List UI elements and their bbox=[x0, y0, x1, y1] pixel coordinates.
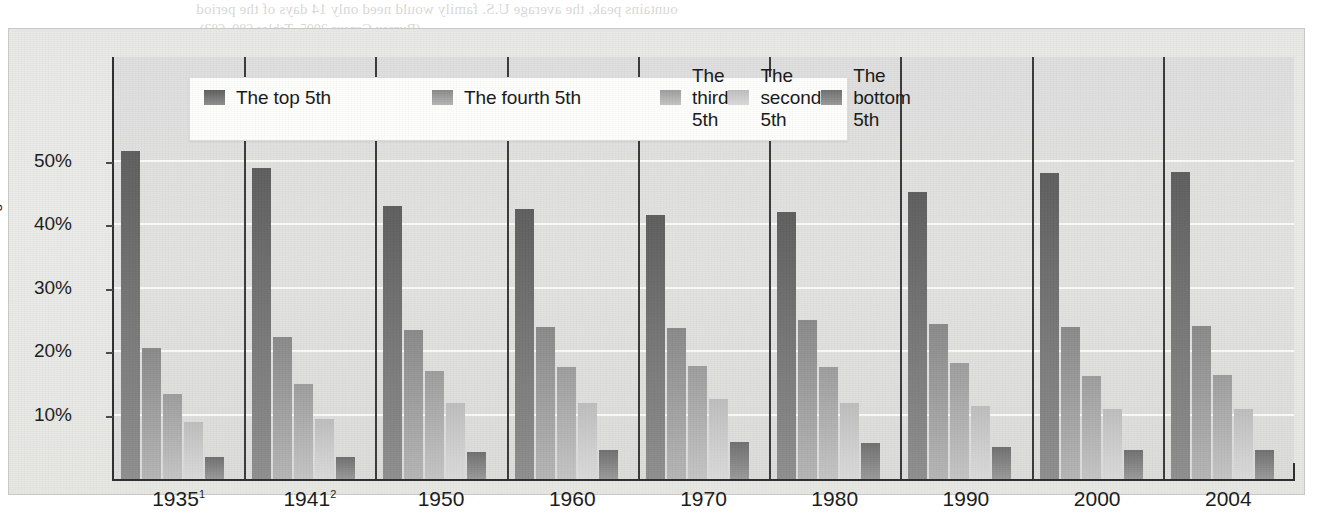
x-axis-line bbox=[112, 479, 1295, 481]
bar-2000-the-third-5th[interactable] bbox=[1082, 376, 1101, 479]
x-axis-label-1990: 1990 bbox=[900, 487, 1031, 511]
bar-1990-the-bottom-5th[interactable] bbox=[992, 447, 1011, 479]
group-separator bbox=[1163, 57, 1165, 479]
bar-1970-the-top-5th[interactable] bbox=[646, 215, 665, 479]
y-tick-40 bbox=[106, 225, 113, 227]
bar-1950-the-third-5th[interactable] bbox=[425, 371, 444, 479]
bar-1960-the-third-5th[interactable] bbox=[557, 367, 576, 479]
bar-1980-the-bottom-5th[interactable] bbox=[861, 443, 880, 479]
x-axis-label-1935: 19351 bbox=[113, 487, 244, 511]
y-tick-label-30: 30% bbox=[12, 277, 72, 299]
bar-1980-the-second-5th[interactable] bbox=[840, 403, 859, 479]
bar-1990-the-top-5th[interactable] bbox=[908, 192, 927, 479]
bar-1980-the-fourth-5th[interactable] bbox=[798, 320, 817, 479]
legend-item-the-second-5th[interactable]: The second 5th bbox=[728, 85, 821, 110]
ghost-text-top-line-1: ountains peak, the average U.S. family w… bbox=[196, 1, 678, 18]
group-separator bbox=[1032, 57, 1034, 479]
legend-swatch-icon bbox=[660, 90, 681, 105]
bar-2004-the-second-5th[interactable] bbox=[1234, 409, 1253, 479]
y-tick-10 bbox=[106, 416, 113, 418]
bar-1960-the-fourth-5th[interactable] bbox=[536, 327, 555, 479]
chart-legend: The top 5thThe fourth 5thThe third 5thTh… bbox=[189, 77, 848, 141]
x-label-footnote: 2 bbox=[330, 488, 336, 500]
bar-2000-the-top-5th[interactable] bbox=[1040, 173, 1059, 479]
bar-1935-the-third-5th[interactable] bbox=[163, 394, 182, 479]
bar-1960-the-second-5th[interactable] bbox=[578, 403, 597, 479]
legend-swatch-icon bbox=[821, 90, 842, 105]
legend-label: The top 5th bbox=[236, 87, 331, 109]
bar-1950-the-fourth-5th[interactable] bbox=[404, 330, 423, 479]
legend-label: The third 5th bbox=[692, 65, 728, 131]
legend-swatch-icon bbox=[728, 90, 749, 105]
y-tick-label-40: 40% bbox=[12, 213, 72, 235]
bar-1950-the-second-5th[interactable] bbox=[446, 403, 465, 479]
chart-frame: Unequal Distribution of the Income of Am… bbox=[8, 28, 1305, 495]
legend-label: The second 5th bbox=[760, 65, 821, 131]
bar-1980-the-third-5th[interactable] bbox=[819, 367, 838, 479]
bar-1990-the-third-5th[interactable] bbox=[950, 363, 969, 479]
y-tick-label-10: 10% bbox=[12, 404, 72, 426]
bar-2000-the-second-5th[interactable] bbox=[1103, 409, 1122, 479]
legend-item-the-fourth-5th[interactable]: The fourth 5th bbox=[432, 85, 660, 110]
legend-swatch-icon bbox=[204, 90, 225, 105]
bar-1941-the-second-5th[interactable] bbox=[315, 419, 334, 479]
x-axis-label-1970: 1970 bbox=[638, 487, 769, 511]
bar-1941-the-third-5th[interactable] bbox=[294, 384, 313, 479]
bar-1941-the-top-5th[interactable] bbox=[252, 168, 271, 479]
x-label-footnote: 1 bbox=[199, 488, 205, 500]
y-tick-50 bbox=[106, 162, 113, 164]
y-axis-title: Percentage bbox=[0, 195, 2, 272]
x-axis-label-1941: 19412 bbox=[244, 487, 375, 511]
bar-2004-the-top-5th[interactable] bbox=[1171, 172, 1190, 479]
bar-1941-the-fourth-5th[interactable] bbox=[273, 337, 292, 479]
legend-item-the-bottom-5th[interactable]: The bottom 5th bbox=[821, 85, 910, 110]
bar-2004-the-fourth-5th[interactable] bbox=[1192, 326, 1211, 479]
bar-group bbox=[1032, 57, 1163, 479]
y-tick-label-20: 20% bbox=[12, 340, 72, 362]
bar-1980-the-top-5th[interactable] bbox=[777, 212, 796, 479]
bar-group bbox=[900, 57, 1031, 479]
bar-1970-the-third-5th[interactable] bbox=[688, 366, 707, 479]
bar-1990-the-fourth-5th[interactable] bbox=[929, 324, 948, 479]
bar-1935-the-fourth-5th[interactable] bbox=[142, 348, 161, 479]
legend-swatch-icon bbox=[432, 90, 453, 105]
legend-label: The bottom 5th bbox=[853, 65, 910, 131]
x-axis-right-cap bbox=[1293, 463, 1295, 481]
bar-1941-the-bottom-5th[interactable] bbox=[336, 457, 355, 479]
bar-1950-the-bottom-5th[interactable] bbox=[467, 452, 486, 479]
y-tick-20 bbox=[106, 352, 113, 354]
bar-1990-the-second-5th[interactable] bbox=[971, 406, 990, 479]
x-axis-label-1980: 1980 bbox=[769, 487, 900, 511]
bar-1935-the-bottom-5th[interactable] bbox=[205, 457, 224, 479]
bar-2000-the-bottom-5th[interactable] bbox=[1124, 450, 1143, 479]
bar-group bbox=[1163, 57, 1294, 479]
bar-1970-the-bottom-5th[interactable] bbox=[730, 442, 749, 479]
x-axis-label-1950: 1950 bbox=[375, 487, 506, 511]
legend-item-the-top-5th[interactable]: The top 5th bbox=[204, 85, 432, 110]
bar-1970-the-fourth-5th[interactable] bbox=[667, 328, 686, 479]
x-axis-label-1960: 1960 bbox=[507, 487, 638, 511]
bar-1960-the-top-5th[interactable] bbox=[515, 209, 534, 480]
y-tick-label-50: 50% bbox=[12, 150, 72, 172]
legend-item-the-third-5th[interactable]: The third 5th bbox=[660, 85, 728, 110]
scanned-page: ountains peak, the average U.S. family w… bbox=[0, 0, 1324, 517]
x-axis-label-2004: 2004 bbox=[1163, 487, 1294, 511]
bar-1970-the-second-5th[interactable] bbox=[709, 399, 728, 479]
bar-1950-the-top-5th[interactable] bbox=[383, 206, 402, 479]
y-tick-30 bbox=[106, 289, 113, 291]
bar-2000-the-fourth-5th[interactable] bbox=[1061, 327, 1080, 479]
bar-1960-the-bottom-5th[interactable] bbox=[599, 450, 618, 479]
legend-label: The fourth 5th bbox=[464, 87, 581, 109]
bar-1935-the-second-5th[interactable] bbox=[184, 422, 203, 479]
bar-2004-the-third-5th[interactable] bbox=[1213, 375, 1232, 479]
bar-2004-the-bottom-5th[interactable] bbox=[1255, 450, 1274, 479]
bar-1935-the-top-5th[interactable] bbox=[121, 151, 140, 479]
x-axis-label-2000: 2000 bbox=[1032, 487, 1163, 511]
